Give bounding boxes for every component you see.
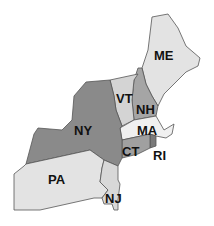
label-me: ME <box>154 48 174 63</box>
northeast-us-map: ME NH VT MA RI CT NY PA NJ <box>0 0 214 226</box>
label-nj: NJ <box>105 191 122 206</box>
label-ma: MA <box>137 123 158 138</box>
label-ny: NY <box>74 123 92 138</box>
label-nh: NH <box>136 102 155 117</box>
label-pa: PA <box>48 172 66 187</box>
label-vt: VT <box>116 91 133 106</box>
label-ct: CT <box>122 144 139 159</box>
label-ri: RI <box>153 148 166 163</box>
